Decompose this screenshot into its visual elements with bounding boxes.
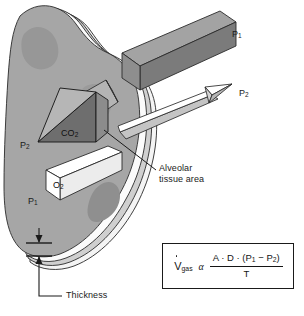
label-p1-left: P1 — [28, 196, 38, 207]
alveolar-diffusion-figure: P1 P2 P2 P1 CO2 O2 Alveolar tissue area … — [0, 0, 304, 316]
p1-gas-bar — [122, 11, 236, 90]
label-p1-top-right: P1 — [232, 29, 242, 40]
thickness-leader-line — [39, 272, 62, 296]
formula-denominator: T — [243, 267, 249, 279]
alveolar-label-line-1: Alveolar — [159, 163, 204, 174]
label-o2: O2 — [53, 180, 64, 191]
label-p2-left: P2 — [20, 140, 30, 151]
vgas-dot-icon — [176, 255, 178, 257]
formula-vgas-symbol: Vgas — [173, 260, 192, 272]
formula-proportional-symbol: α — [199, 261, 204, 272]
label-co2: CO2 — [61, 128, 78, 139]
fick-law-formula-box: Vgas α A · D · (P1 − P2) T — [162, 243, 294, 289]
label-alveolar-tissue-area: Alveolar tissue area — [159, 163, 204, 185]
formula-content: Vgas α A · D · (P1 − P2) T — [163, 244, 293, 288]
alveolar-label-line-2: tissue area — [159, 174, 204, 185]
label-p2-right: P2 — [239, 88, 249, 99]
label-thickness: Thickness — [66, 290, 107, 300]
formula-fraction: A · D · (P1 − P2) T — [210, 253, 283, 279]
formula-numerator: A · D · (P1 − P2) — [210, 253, 283, 266]
